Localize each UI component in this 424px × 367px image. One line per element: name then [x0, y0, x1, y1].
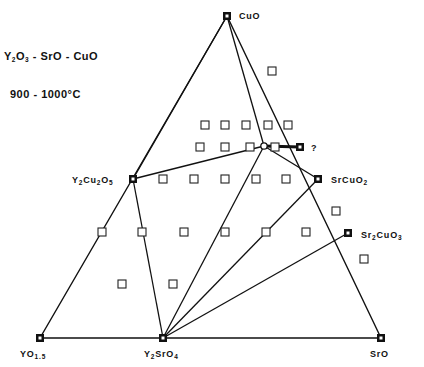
open-sample-marker: [221, 143, 229, 151]
open-sample-marker: [221, 175, 229, 183]
tie-line-srcuo2-y2sro4: [163, 179, 318, 338]
phase-marker-center: [380, 337, 383, 340]
open-sample-marker: [282, 175, 290, 183]
open-sample-marker: [201, 121, 209, 129]
open-sample-marker: [284, 121, 292, 129]
label-srcuo2: SrCuO2: [331, 175, 368, 186]
label-sro: SrO: [370, 349, 389, 359]
phase-marker-center: [299, 146, 302, 149]
open-sample-marker: [138, 228, 146, 236]
open-sample-marker: [268, 67, 276, 75]
system-title: Y2O3 - SrO - CuO: [4, 50, 98, 63]
tie-line-y2cu2o5-cuo: [133, 16, 227, 179]
open-sample-marker: [264, 121, 272, 129]
open-sample-marker: [332, 207, 340, 215]
label-yo15: YO1.5: [20, 349, 46, 360]
open-sample-marker: [196, 143, 204, 151]
label-unknown-phase: ?: [311, 143, 317, 153]
open-sample-marker: [98, 228, 106, 236]
label-y2sro4: Y2SrO4: [144, 349, 179, 360]
phase-marker-center: [226, 15, 229, 18]
open-sample-marker: [242, 121, 250, 129]
open-sample-marker: [221, 228, 229, 236]
open-sample-marker: [246, 143, 254, 151]
tie-line-junction-unknown: [264, 146, 300, 147]
tie-line-y2cu2o5-y2sro4: [133, 179, 163, 338]
phase-marker-center: [132, 178, 135, 181]
label-sr2cuo3: Sr2CuO3: [361, 230, 402, 241]
open-sample-marker: [159, 175, 167, 183]
open-sample-marker: [118, 280, 126, 288]
open-sample-marker: [360, 255, 368, 263]
open-sample-marker: [252, 175, 260, 183]
label-cuo: CuO: [239, 11, 260, 21]
phase-marker-center: [39, 337, 42, 340]
phase-marker-center: [162, 337, 165, 340]
open-sample-marker: [302, 228, 310, 236]
temperature-label: 900 - 1000°C: [10, 88, 81, 100]
open-sample-marker: [180, 228, 188, 236]
phase-marker-center: [317, 178, 320, 181]
open-sample-marker: [169, 280, 177, 288]
label-y2cu2o5: Y2Cu2O5: [72, 175, 114, 186]
open-sample-marker: [190, 175, 198, 183]
open-sample-marker: [271, 143, 279, 151]
ternary-phase-diagram: Y2O3 - SrO - CuO 900 - 1000°C CuO YO1.5 …: [0, 0, 424, 367]
open-sample-marker: [221, 121, 229, 129]
phase-marker-center: [347, 232, 350, 235]
junction-point: [261, 143, 267, 149]
open-sample-marker: [262, 228, 270, 236]
